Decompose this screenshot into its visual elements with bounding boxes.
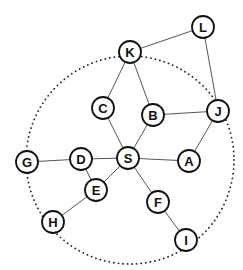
node-label: H bbox=[48, 215, 57, 230]
node-j: J bbox=[207, 100, 229, 122]
edge-l-j bbox=[203, 27, 218, 111]
node-e: E bbox=[85, 179, 107, 201]
node-label: B bbox=[148, 108, 157, 123]
node-l: L bbox=[192, 16, 214, 38]
node-i: I bbox=[175, 229, 197, 251]
node-s: S bbox=[117, 147, 139, 169]
node-label: F bbox=[154, 195, 162, 210]
node-k: K bbox=[119, 41, 141, 63]
node-label: K bbox=[125, 45, 135, 60]
nodes: LKCBJSADGEFHI bbox=[16, 16, 229, 251]
node-label: G bbox=[22, 155, 32, 170]
network-graph: LKCBJSADGEFHI bbox=[0, 0, 243, 270]
node-g: G bbox=[16, 151, 38, 173]
node-b: B bbox=[142, 104, 164, 126]
node-label: I bbox=[184, 233, 188, 248]
node-label: S bbox=[124, 151, 133, 166]
node-label: J bbox=[214, 104, 221, 119]
node-a: A bbox=[178, 150, 200, 172]
node-label: D bbox=[76, 152, 85, 167]
node-f: F bbox=[147, 191, 169, 213]
node-label: E bbox=[92, 183, 101, 198]
node-c: C bbox=[92, 97, 114, 119]
node-d: D bbox=[70, 148, 92, 170]
node-h: H bbox=[42, 211, 64, 233]
node-label: L bbox=[199, 20, 207, 35]
node-label: A bbox=[184, 154, 194, 169]
node-label: C bbox=[98, 101, 108, 116]
